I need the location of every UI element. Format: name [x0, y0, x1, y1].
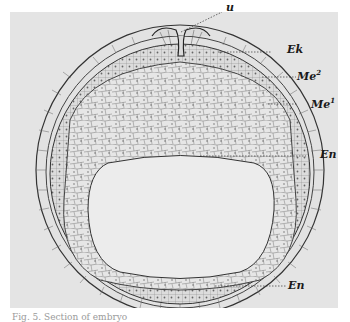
yolk-cavity — [88, 156, 274, 279]
label-me1: Me1 — [311, 97, 335, 110]
label-en-bottom: En — [288, 280, 304, 291]
embryo-section-illustration — [10, 12, 338, 308]
figure-panel — [10, 12, 338, 308]
figure-caption: Fig. 5. Section of embryo — [12, 312, 127, 322]
label-ek: Ek — [287, 44, 303, 55]
label-u: u — [226, 2, 234, 13]
label-me2: Me2 — [297, 69, 321, 82]
label-en-side: En — [320, 149, 336, 160]
